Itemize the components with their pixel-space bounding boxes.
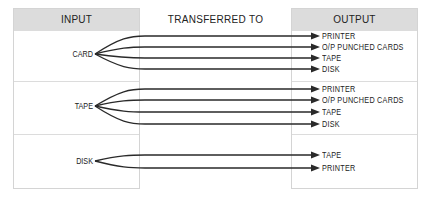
arrowhead-icon: [311, 97, 320, 104]
transfer-arrow-line: [95, 161, 312, 168]
transfer-arrow-line: [95, 89, 312, 106]
transfer-arrow-line: [95, 54, 312, 69]
transfer-arrow-line: [95, 54, 312, 58]
arrowhead-icon: [311, 55, 320, 62]
arrowhead-icon: [311, 121, 320, 128]
arrowhead-icon: [311, 66, 320, 73]
arrowhead-icon: [311, 152, 320, 159]
transfer-arrow-line: [95, 106, 312, 112]
transfer-arrows: [0, 0, 426, 201]
transfer-arrow-line: [95, 36, 312, 54]
arrowhead-icon: [311, 86, 320, 93]
arrowhead-icon: [311, 44, 320, 51]
arrowhead-icon: [311, 33, 320, 40]
transfer-arrow-line: [95, 100, 312, 106]
arrowhead-icon: [311, 165, 320, 172]
arrowhead-icon: [311, 109, 320, 116]
transfer-arrow-line: [95, 106, 312, 124]
transfer-arrow-line: [95, 47, 312, 54]
transfer-arrow-line: [95, 155, 312, 161]
